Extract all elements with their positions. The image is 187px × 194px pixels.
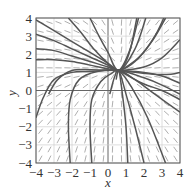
- slope-mark: [147, 111, 151, 116]
- slope-mark: [164, 111, 169, 115]
- slope-mark: [112, 101, 113, 107]
- y-tick-label: −1: [18, 101, 32, 116]
- slope-mark: [66, 146, 68, 152]
- slope-mark: [155, 48, 161, 51]
- slope-mark: [165, 156, 168, 162]
- slope-mark: [130, 155, 131, 161]
- slope-mark: [173, 129, 177, 134]
- slope-mark: [165, 147, 168, 152]
- slope-mark: [112, 110, 113, 116]
- slope-mark: [172, 58, 178, 59]
- slope-mark: [85, 155, 86, 161]
- slope-mark: [37, 85, 43, 87]
- slope-mark: [164, 20, 169, 25]
- slope-mark: [66, 155, 68, 161]
- slope-mark: [173, 111, 178, 115]
- slope-mark: [56, 85, 62, 87]
- slope-mark: [75, 128, 78, 134]
- slope-mark: [172, 77, 178, 78]
- slope-mark: [137, 47, 142, 52]
- slope-mark: [146, 38, 151, 43]
- slope-mark: [130, 119, 131, 125]
- slope-mark: [156, 129, 159, 134]
- slope-mark: [57, 138, 60, 144]
- slope-mark: [102, 92, 104, 98]
- y-tick-label: −4: [18, 156, 32, 171]
- slope-mark: [48, 138, 51, 143]
- slope-mark: [147, 155, 149, 161]
- slope-mark: [130, 29, 132, 35]
- slope-mark: [130, 146, 131, 152]
- slope-mark: [156, 147, 159, 153]
- slope-mark: [76, 155, 78, 161]
- slope-mark: [84, 101, 87, 106]
- slope-mark: [173, 102, 179, 105]
- slope-mark: [48, 129, 52, 134]
- slope-mark: [137, 93, 141, 98]
- slope-mark: [103, 119, 104, 125]
- slope-mark: [164, 48, 170, 51]
- slope-mark: [172, 49, 178, 51]
- slope-mark: [145, 76, 151, 77]
- slope-mark: [163, 58, 169, 60]
- slope-mark: [94, 119, 96, 125]
- slope-mark: [174, 156, 177, 161]
- solution-curve: [90, 18, 146, 71]
- slope-mark: [165, 129, 169, 134]
- slope-mark: [155, 20, 159, 25]
- slope-mark: [75, 102, 79, 107]
- slope-mark: [75, 146, 77, 152]
- slope-mark: [47, 111, 52, 115]
- y-tick-label: 1: [26, 65, 33, 80]
- slope-mark: [37, 40, 43, 41]
- slope-mark: [56, 102, 61, 106]
- y-tick-label: 4: [26, 11, 33, 26]
- direction-field-chart: −4−3−2−101234 −4−3−2−101234 x y: [0, 0, 187, 194]
- x-tick-label: −3: [47, 165, 61, 180]
- slope-mark: [57, 156, 60, 162]
- slope-mark: [103, 155, 104, 161]
- slope-mark: [38, 94, 44, 97]
- slope-mark: [130, 19, 132, 25]
- slope-mark: [147, 29, 151, 34]
- y-tick-label: −3: [18, 137, 32, 152]
- slope-mark: [64, 49, 70, 50]
- slope-mark: [38, 111, 43, 115]
- slope-mark: [147, 137, 150, 143]
- slope-mark: [57, 147, 60, 153]
- slope-mark: [146, 102, 150, 107]
- slope-mark: [47, 120, 51, 125]
- slope-mark: [83, 21, 88, 25]
- slope-mark: [39, 156, 42, 162]
- slope-mark: [46, 21, 52, 23]
- x-axis-label: x: [104, 175, 111, 190]
- slope-mark: [139, 155, 140, 161]
- x-tick-label: 1: [123, 165, 130, 180]
- slope-mark: [94, 155, 95, 161]
- slope-mark: [64, 58, 70, 59]
- slope-mark: [74, 93, 79, 97]
- slope-mark: [38, 120, 42, 125]
- slope-mark: [39, 147, 42, 152]
- slope-mark: [103, 110, 104, 116]
- slope-mark: [38, 129, 42, 134]
- slope-mark: [83, 93, 87, 98]
- slope-mark: [145, 68, 151, 69]
- x-tick-label: −1: [83, 165, 97, 180]
- slope-mark: [103, 101, 105, 107]
- slope-mark: [93, 110, 95, 116]
- slope-mark: [156, 120, 160, 125]
- slope-mark: [103, 146, 104, 152]
- slope-mark: [164, 39, 169, 42]
- slope-mark: [130, 128, 131, 134]
- slope-mark: [103, 137, 104, 143]
- slope-mark: [84, 119, 86, 125]
- slope-mark: [92, 39, 97, 42]
- y-tick-label: 3: [26, 29, 33, 44]
- slope-mark: [138, 119, 140, 125]
- slope-mark: [57, 120, 61, 125]
- slope-mark: [65, 21, 71, 24]
- slope-mark: [64, 76, 70, 77]
- slope-mark: [75, 137, 77, 143]
- slope-mark: [47, 102, 52, 106]
